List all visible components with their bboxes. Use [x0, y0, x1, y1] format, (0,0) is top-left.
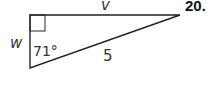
label-w: w — [10, 34, 23, 52]
problem-number: 20. — [185, 0, 206, 14]
right-triangle-diagram: v w 71° 5 20. — [0, 0, 208, 99]
label-hypotenuse: 5 — [103, 47, 113, 65]
label-angle: 71° — [33, 43, 58, 59]
label-v: v — [101, 0, 111, 14]
right-angle-marker — [30, 15, 45, 31]
